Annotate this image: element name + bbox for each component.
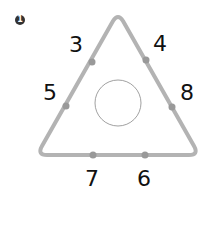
vertex-dot-left-mid — [63, 103, 70, 110]
label-left-top: 3 — [69, 34, 83, 56]
label-right-mid: 8 — [180, 82, 194, 104]
vertex-dot-right-mid — [169, 104, 176, 111]
label-left-mid: 5 — [43, 82, 57, 104]
label-bottom-left: 7 — [85, 168, 99, 190]
label-right-top: 4 — [153, 33, 167, 55]
vertex-dot-right-top — [143, 57, 150, 64]
vertex-dot-bottom-left — [90, 152, 97, 159]
center-circle — [95, 80, 141, 126]
vertex-dot-left-top — [89, 59, 96, 66]
label-bottom-right: 6 — [137, 168, 151, 190]
vertex-dot-bottom-right — [142, 152, 149, 159]
